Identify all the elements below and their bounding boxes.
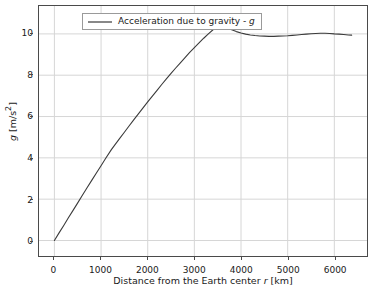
x-axis-tick-label: 3000 — [183, 265, 206, 275]
x-axis-tick-label: 2000 — [136, 265, 159, 275]
y-axis-tick-mark — [30, 33, 33, 34]
gravity-chart-figure: g [m/s2] 0246810 Acceleration due to gra… — [0, 0, 379, 293]
x-axis-tick-label: 5000 — [277, 265, 300, 275]
y-axis-tick-mark — [30, 116, 33, 117]
x-axis-label-post: [km] — [268, 275, 293, 286]
x-axis-tick-mark — [147, 257, 148, 260]
legend-label-text: Acceleration due to gravity - — [118, 16, 249, 26]
x-axis-tick-mark — [194, 257, 195, 260]
legend-line-swatch — [88, 18, 112, 26]
x-axis-tick-mark — [100, 257, 101, 260]
y-axis-tick-mark — [30, 74, 33, 75]
x-axis-tick-label: 0 — [51, 265, 57, 275]
legend-entry-label: Acceleration due to gravity - g — [118, 17, 255, 26]
x-axis-tick-mark — [241, 257, 242, 260]
x-axis-tick-mark — [288, 257, 289, 260]
x-axis-tick-label: 1000 — [89, 265, 112, 275]
y-axis-tick-mark — [30, 158, 33, 159]
legend-label-symbol: g — [249, 16, 255, 26]
x-axis-tick-mark — [335, 257, 336, 260]
plot-area: Acceleration due to gravity - g — [38, 5, 368, 257]
x-axis-tick-label: 6000 — [324, 265, 347, 275]
x-axis-label: Distance from the Earth center r [km] — [38, 275, 368, 286]
y-axis-tick-mark — [30, 241, 33, 242]
x-axis-label-pre: Distance from the Earth center — [113, 275, 263, 286]
x-axis-tick-mark — [53, 257, 54, 260]
x-axis-tick-label: 4000 — [230, 265, 253, 275]
series-line-gravity — [54, 22, 351, 241]
x-axis-tick-labels: 0100020003000400050006000 — [38, 261, 368, 275]
y-axis-tick-mark — [30, 199, 33, 200]
data-series-layer — [39, 6, 367, 256]
y-axis-tick-labels: 0246810 — [0, 5, 33, 257]
legend[interactable]: Acceleration due to gravity - g — [82, 13, 262, 30]
